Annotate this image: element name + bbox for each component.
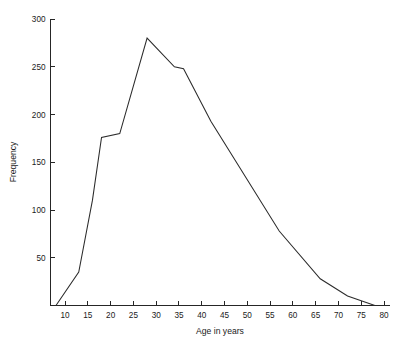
x-tick-label: 15 — [83, 311, 93, 320]
x-tick-label: 10 — [61, 311, 71, 320]
chart-background — [0, 0, 404, 347]
x-axis-title: Age in years — [196, 326, 244, 336]
x-tick-label: 40 — [197, 311, 207, 320]
y-tick-label: 250 — [32, 63, 46, 72]
y-tick-label: 200 — [32, 111, 46, 120]
chart-container: 50100150200250300 Frequency 101520253035… — [0, 0, 404, 347]
x-tick-label: 45 — [220, 311, 230, 320]
y-tick-label: 150 — [32, 158, 46, 167]
y-tick-label: 100 — [32, 206, 46, 215]
x-tick-label: 35 — [174, 311, 184, 320]
x-tick-label: 30 — [152, 311, 162, 320]
y-tick-label: 50 — [36, 254, 46, 263]
x-axis-tick-labels: 101520253035404550556065707580 — [61, 311, 389, 320]
frequency-age-line-chart: 50100150200250300 Frequency 101520253035… — [0, 0, 404, 347]
x-tick-label: 65 — [311, 311, 321, 320]
x-tick-label: 20 — [106, 311, 116, 320]
x-tick-label: 55 — [266, 311, 276, 320]
x-tick-label: 60 — [288, 311, 298, 320]
x-tick-label: 50 — [243, 311, 253, 320]
x-tick-label: 80 — [379, 311, 389, 320]
x-tick-label: 25 — [129, 311, 139, 320]
x-tick-label: 70 — [334, 311, 344, 320]
y-tick-label: 300 — [32, 15, 46, 24]
y-axis-title: Frequency — [8, 141, 18, 182]
x-tick-label: 75 — [357, 311, 367, 320]
